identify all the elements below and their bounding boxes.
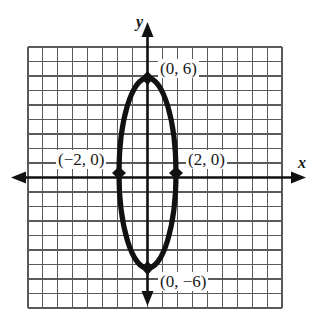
vertex-left-label: (−2, 0) bbox=[56, 150, 106, 169]
y-axis-label: y bbox=[136, 14, 143, 30]
vertex-top-label: (0, 6) bbox=[158, 59, 199, 78]
x-axis-arrow-right bbox=[291, 172, 306, 184]
x-axis-label: x bbox=[298, 155, 306, 171]
vertex-right-label: (2, 0) bbox=[186, 150, 227, 169]
y-axis-arrow-up bbox=[142, 22, 154, 37]
y-axis-arrow-down bbox=[142, 291, 154, 306]
vertex-point-bottom bbox=[141, 261, 154, 275]
x-axis-arrow-left bbox=[11, 172, 26, 184]
vertex-point-top bbox=[141, 71, 154, 85]
graph-figure: (0, 6) (0, −6) (−2, 0) (2, 0) x y bbox=[0, 0, 317, 330]
vertex-bottom-label: (0, −6) bbox=[158, 272, 208, 291]
